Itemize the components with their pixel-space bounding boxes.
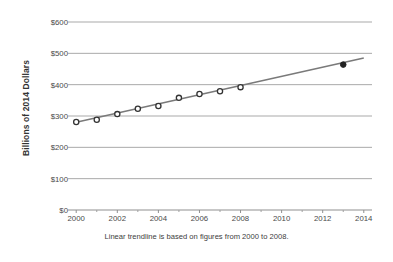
- x-axis-tick-labels: 20002002200420062008201020122014: [0, 214, 393, 228]
- x-tick-label: 2012: [314, 214, 331, 223]
- x-tick-label: 2000: [68, 214, 85, 223]
- data-point-open: [217, 89, 222, 94]
- data-point-open: [135, 106, 140, 111]
- x-tick-label: 2008: [232, 214, 249, 223]
- data-point-filled: [340, 62, 346, 68]
- x-tick-label: 2010: [273, 214, 290, 223]
- data-point-open: [176, 95, 181, 100]
- x-tick-label: 2006: [191, 214, 208, 223]
- data-point-open: [156, 103, 161, 108]
- data-point-open: [94, 117, 99, 122]
- data-point-open: [197, 91, 202, 96]
- gridlines: [68, 22, 372, 210]
- chart-container: Billions of 2014 Dollars $0$100$200$300$…: [0, 0, 393, 262]
- x-tick-label: 2014: [355, 214, 372, 223]
- chart-caption: Linear trendline is based on figures fro…: [0, 232, 393, 241]
- x-tick-label: 2004: [150, 214, 167, 223]
- data-point-open: [115, 112, 120, 117]
- data-point-open: [74, 119, 79, 124]
- data-point-open: [238, 85, 243, 90]
- x-tick-label: 2002: [109, 214, 126, 223]
